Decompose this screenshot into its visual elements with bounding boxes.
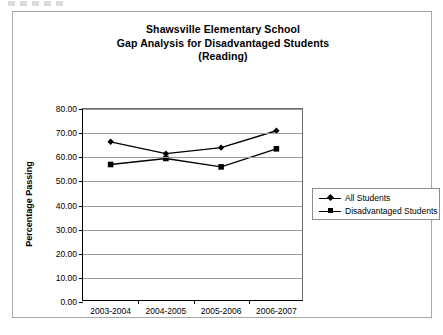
gridline — [83, 206, 302, 207]
x-tick-mark — [249, 300, 250, 304]
data-point-2-1 — [108, 162, 114, 168]
y-tick-mark — [79, 254, 83, 255]
chart-frame: Shawsville Elementary School Gap Analysi… — [12, 11, 432, 318]
series-line-1 — [111, 131, 277, 154]
y-tick-mark — [79, 302, 83, 303]
x-tick-label: 2006-2007 — [256, 306, 297, 316]
gridline — [83, 181, 302, 182]
y-tick-mark — [79, 133, 83, 134]
y-axis-title: Percentage Passing — [24, 161, 34, 247]
plot-area: 80.0070.0060.0050.0040.0030.0020.0010.00… — [82, 108, 303, 301]
data-point-2-3 — [218, 164, 224, 170]
x-tick-label: 2004-2005 — [146, 306, 187, 316]
y-tick-label: 60.00 — [56, 152, 77, 162]
data-point-2-4 — [274, 146, 280, 152]
chart-title-line-1: Shawsville Elementary School — [13, 23, 433, 37]
gridline — [83, 109, 302, 110]
y-tick-label: 50.00 — [56, 176, 77, 186]
y-tick-mark — [79, 230, 83, 231]
chart-title-line-3: (Reading) — [13, 50, 433, 64]
legend-item-disadvantaged-students: Disadvantaged Students — [319, 205, 438, 217]
legend-key-square-icon — [319, 206, 341, 216]
y-tick-label: 40.00 — [56, 201, 77, 211]
x-tick-label: 2005-2006 — [201, 306, 242, 316]
data-point-1-1 — [107, 139, 113, 145]
x-tick-mark — [194, 300, 195, 304]
y-tick-mark — [79, 109, 83, 110]
chart-screenshot: Shawsville Elementary School Gap Analysi… — [0, 0, 443, 335]
chart-title: Shawsville Elementary School Gap Analysi… — [13, 23, 433, 64]
legend-item-all-students: All Students — [319, 192, 390, 204]
gridline — [83, 278, 302, 279]
gridline — [83, 133, 302, 134]
y-tick-mark — [79, 157, 83, 158]
y-tick-label: 0.00 — [60, 297, 77, 307]
legend-key-diamond-icon — [319, 193, 341, 203]
gridline — [83, 230, 302, 231]
legend-label-disadvantaged-students: Disadvantaged Students — [345, 206, 438, 216]
x-tick-mark — [138, 300, 139, 304]
y-tick-label: 70.00 — [56, 128, 77, 138]
y-tick-label: 20.00 — [56, 249, 77, 259]
y-tick-label: 10.00 — [56, 273, 77, 283]
x-tick-label: 2003-2004 — [90, 306, 131, 316]
data-point-1-3 — [218, 144, 224, 150]
chart-title-line-2: Gap Analysis for Disadvantaged Students — [13, 37, 433, 51]
legend-label-all-students: All Students — [345, 193, 390, 203]
gridline — [83, 157, 302, 158]
y-tick-label: 80.00 — [56, 104, 77, 114]
y-tick-mark — [79, 181, 83, 182]
chart-legend: All Students Disadvantaged Students — [312, 188, 440, 220]
gridline — [83, 254, 302, 255]
y-tick-label: 30.00 — [56, 225, 77, 235]
y-tick-mark — [79, 278, 83, 279]
y-tick-mark — [79, 206, 83, 207]
scan-artifact — [8, 1, 68, 6]
